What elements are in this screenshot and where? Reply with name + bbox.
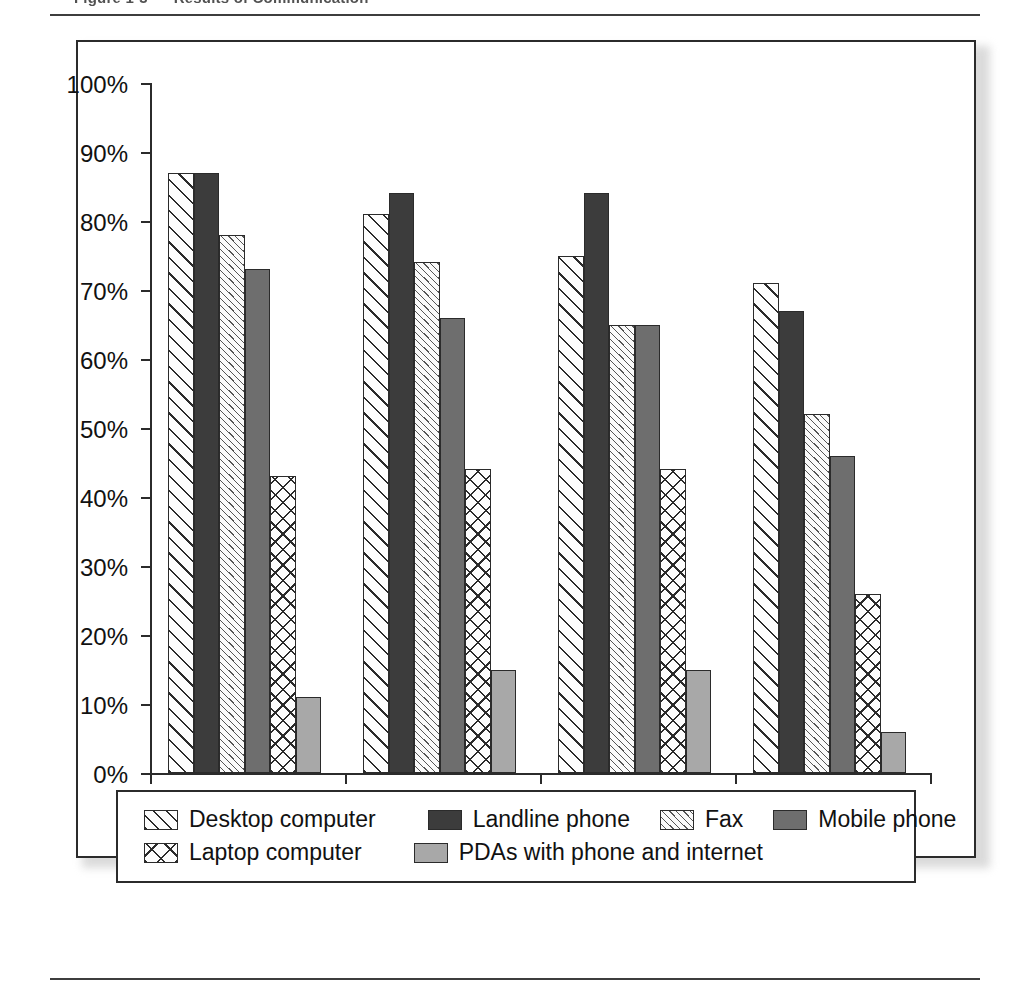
- bar-gen-xers-mobile-phone: [635, 325, 661, 774]
- figure-caption-number: Figure 1-3: [74, 0, 148, 6]
- legend-swatch-icon: [414, 843, 448, 863]
- bar-boomers-pdas-with-phone-and-internet: [491, 670, 517, 774]
- legend-swatch-icon: [428, 810, 462, 830]
- legend-item-laptop-computer[interactable]: Laptop computer: [144, 839, 362, 866]
- bar-gen-xers-pdas-with-phone-and-internet: [686, 670, 712, 774]
- y-tick-label: 10%: [80, 692, 128, 720]
- legend-row: Laptop computerPDAs with phone and inter…: [118, 836, 914, 869]
- bar-gen-xers-desktop-computer: [558, 256, 584, 774]
- figure-caption: Figure 1-3Results of Communication: [74, 0, 369, 6]
- x-tick: [735, 773, 737, 784]
- bar-group-boomers: [345, 83, 540, 773]
- bar-group-gen-xers: [540, 83, 735, 773]
- legend-row: Desktop computerLandline phoneFaxMobile …: [118, 803, 914, 836]
- bar-gen-xers-landline-phone: [584, 193, 610, 773]
- y-tick-label: 30%: [80, 554, 128, 582]
- legend-label: Landline phone: [473, 806, 630, 833]
- bar-traditionalists-desktop-computer: [168, 173, 194, 773]
- bar-gen-xers-laptop-computer: [660, 469, 686, 773]
- legend-label: Desktop computer: [189, 806, 376, 833]
- bar-millennials-desktop-computer: [753, 283, 779, 773]
- bottom-rule: [50, 978, 980, 980]
- legend-swatch-icon: [144, 810, 178, 830]
- legend-label: PDAs with phone and internet: [459, 839, 763, 866]
- y-tick-40pct: 40%: [141, 497, 150, 499]
- x-tick: [150, 773, 152, 784]
- figure-caption-title: Results of Communication: [174, 0, 369, 6]
- x-tick: [930, 773, 932, 784]
- y-tick-label: 20%: [80, 623, 128, 651]
- legend-item-landline-phone[interactable]: Landline phone: [428, 806, 630, 833]
- legend-swatch-icon: [660, 810, 694, 830]
- y-tick-label: 50%: [80, 416, 128, 444]
- y-tick-label: 90%: [80, 140, 128, 168]
- bar-group-millennials: [735, 83, 930, 773]
- y-tick-90pct: 90%: [141, 152, 150, 154]
- bar-traditionalists-fax: [219, 235, 245, 773]
- legend-swatch-icon: [773, 810, 807, 830]
- bar-traditionalists-mobile-phone: [245, 269, 271, 773]
- bar-boomers-laptop-computer: [465, 469, 491, 773]
- legend-item-pdas-with-phone-and-internet[interactable]: PDAs with phone and internet: [414, 839, 763, 866]
- legend-item-fax[interactable]: Fax: [660, 806, 743, 833]
- y-tick-10pct: 10%: [141, 704, 150, 706]
- y-tick-0pct: 0%: [141, 773, 150, 775]
- y-tick-30pct: 30%: [141, 566, 150, 568]
- top-rule: [50, 14, 980, 16]
- bar-traditionalists-laptop-computer: [270, 476, 296, 773]
- bar-gen-xers-fax: [609, 325, 635, 774]
- bar-boomers-fax: [414, 262, 440, 773]
- chart-legend: Desktop computerLandline phoneFaxMobile …: [116, 790, 916, 883]
- y-tick-60pct: 60%: [141, 359, 150, 361]
- y-tick-label: 70%: [80, 278, 128, 306]
- x-tick: [540, 773, 542, 784]
- y-tick-20pct: 20%: [141, 635, 150, 637]
- y-tick-label: 60%: [80, 347, 128, 375]
- x-tick: [345, 773, 347, 784]
- bar-chart-plot-area: 0%10%20%30%40%50%60%70%80%90%100% Tradit…: [150, 83, 930, 773]
- bar-boomers-landline-phone: [389, 193, 415, 773]
- legend-item-desktop-computer[interactable]: Desktop computer: [144, 806, 376, 833]
- y-tick-80pct: 80%: [141, 221, 150, 223]
- bar-millennials-pdas-with-phone-and-internet: [881, 732, 907, 773]
- bar-millennials-landline-phone: [779, 311, 805, 773]
- legend-label: Laptop computer: [189, 839, 362, 866]
- bar-boomers-desktop-computer: [363, 214, 389, 773]
- plot-wrapper: 0%10%20%30%40%50%60%70%80%90%100% Tradit…: [78, 42, 974, 856]
- y-tick-100pct: 100%: [141, 83, 150, 85]
- legend-item-mobile-phone[interactable]: Mobile phone: [773, 806, 956, 833]
- y-tick-50pct: 50%: [141, 428, 150, 430]
- y-tick-label: 100%: [67, 71, 128, 99]
- bar-millennials-laptop-computer: [855, 594, 881, 773]
- figure-caption-strip: Figure 1-3Results of Communication: [0, 0, 1011, 22]
- y-tick-label: 80%: [80, 209, 128, 237]
- bar-millennials-fax: [804, 414, 830, 773]
- legend-swatch-icon: [144, 843, 178, 863]
- bar-traditionalists-landline-phone: [194, 173, 220, 773]
- legend-label: Fax: [705, 806, 743, 833]
- legend-label: Mobile phone: [818, 806, 956, 833]
- bar-boomers-mobile-phone: [440, 318, 466, 773]
- figure-frame: 0%10%20%30%40%50%60%70%80%90%100% Tradit…: [76, 40, 976, 858]
- bar-millennials-mobile-phone: [830, 456, 856, 773]
- y-tick-label: 0%: [93, 761, 128, 789]
- y-tick-label: 40%: [80, 485, 128, 513]
- bar-traditionalists-pdas-with-phone-and-internet: [296, 697, 322, 773]
- bar-group-traditionalists: [150, 83, 345, 773]
- y-tick-70pct: 70%: [141, 290, 150, 292]
